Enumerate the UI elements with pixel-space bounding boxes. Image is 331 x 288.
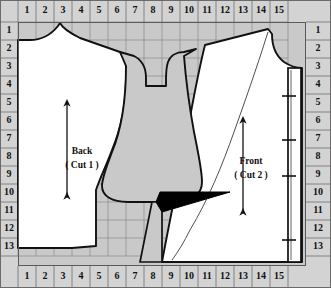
ruler-label-right: 6 xyxy=(316,114,321,125)
ruler-label-bottom: 7 xyxy=(133,270,138,281)
ruler-label-right: 13 xyxy=(313,240,323,251)
ruler-label-left: 10 xyxy=(4,186,14,197)
ruler-label-bottom: 12 xyxy=(220,270,230,281)
pattern-diagram: 123456789101112131415 123456789101112131… xyxy=(0,0,331,288)
ruler-label-top: 12 xyxy=(220,4,230,15)
ruler-label-left: 9 xyxy=(7,168,12,179)
ruler-label-right: 2 xyxy=(316,42,321,53)
ruler-label-bottom: 9 xyxy=(169,270,174,281)
ruler-label-top: 9 xyxy=(169,4,174,15)
ruler-label-left: 3 xyxy=(7,60,12,71)
pattern-svg: 123456789101112131415 123456789101112131… xyxy=(0,0,331,288)
facing-strip[interactable] xyxy=(288,68,301,262)
ruler-label-left: 2 xyxy=(7,42,12,53)
ruler-label-bottom: 13 xyxy=(238,270,248,281)
ruler-label-bottom: 3 xyxy=(61,270,66,281)
ruler-label-bottom: 4 xyxy=(79,270,84,281)
ruler-label-bottom: 2 xyxy=(43,270,48,281)
ruler-bottom-labels: 123456789101112131415 xyxy=(25,270,285,281)
ruler-label-right: 7 xyxy=(316,132,321,143)
ruler-label-top: 11 xyxy=(202,4,211,15)
ruler-label-right: 12 xyxy=(313,222,323,233)
ruler-label-top: 3 xyxy=(61,4,66,15)
ruler-label-right: 3 xyxy=(316,60,321,71)
ruler-label-top: 10 xyxy=(184,4,194,15)
pattern-sheet: 123456789101112131415 123456789101112131… xyxy=(0,0,331,288)
back-piece-cut-label: ( Cut 1 ) xyxy=(65,160,99,171)
ruler-label-bottom: 1 xyxy=(25,270,30,281)
ruler-label-top: 14 xyxy=(256,4,266,15)
ruler-label-right: 10 xyxy=(313,186,323,197)
ruler-label-bottom: 15 xyxy=(274,270,284,281)
ruler-label-bottom: 8 xyxy=(151,270,156,281)
ruler-label-top: 8 xyxy=(151,4,156,15)
ruler-label-top: 6 xyxy=(115,4,120,15)
ruler-label-left: 12 xyxy=(4,222,14,233)
front-piece-cut-label: ( Cut 2 ) xyxy=(234,170,268,181)
ruler-label-left: 8 xyxy=(7,150,12,161)
ruler-label-top: 2 xyxy=(43,4,48,15)
ruler-label-right: 9 xyxy=(316,168,321,179)
ruler-label-top: 15 xyxy=(274,4,284,15)
ruler-label-top: 4 xyxy=(79,4,84,15)
ruler-label-left: 5 xyxy=(7,96,12,107)
ruler-label-left: 7 xyxy=(7,132,12,143)
ruler-label-top: 5 xyxy=(97,4,102,15)
ruler-label-left: 11 xyxy=(4,204,13,215)
ruler-top-labels: 123456789101112131415 xyxy=(25,4,285,15)
back-piece-label: Back xyxy=(72,146,93,156)
ruler-label-left: 4 xyxy=(7,78,12,89)
ruler-label-right: 4 xyxy=(316,78,321,89)
ruler-label-right: 11 xyxy=(313,204,322,215)
ruler-label-right: 8 xyxy=(316,150,321,161)
ruler-label-bottom: 14 xyxy=(256,270,266,281)
ruler-label-bottom: 11 xyxy=(202,270,211,281)
ruler-label-left: 13 xyxy=(4,240,14,251)
ruler-label-top: 13 xyxy=(238,4,248,15)
ruler-label-bottom: 6 xyxy=(115,270,120,281)
ruler-label-top: 7 xyxy=(133,4,138,15)
ruler-label-top: 1 xyxy=(25,4,30,15)
ruler-label-left: 6 xyxy=(7,114,12,125)
ruler-label-right: 1 xyxy=(316,24,321,35)
ruler-label-bottom: 10 xyxy=(184,270,194,281)
front-piece-label: Front xyxy=(239,156,263,166)
ruler-label-left: 1 xyxy=(7,24,12,35)
ruler-label-right: 5 xyxy=(316,96,321,107)
ruler-label-bottom: 5 xyxy=(97,270,102,281)
